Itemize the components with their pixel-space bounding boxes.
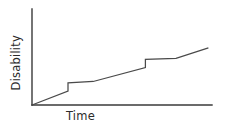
chart-plot-area	[0, 0, 225, 133]
x-axis-label: Time	[66, 111, 95, 123]
chart-figure: Disability Time	[0, 0, 225, 133]
disability-progression-line	[32, 48, 208, 105]
y-axis-label: Disability	[11, 25, 23, 101]
